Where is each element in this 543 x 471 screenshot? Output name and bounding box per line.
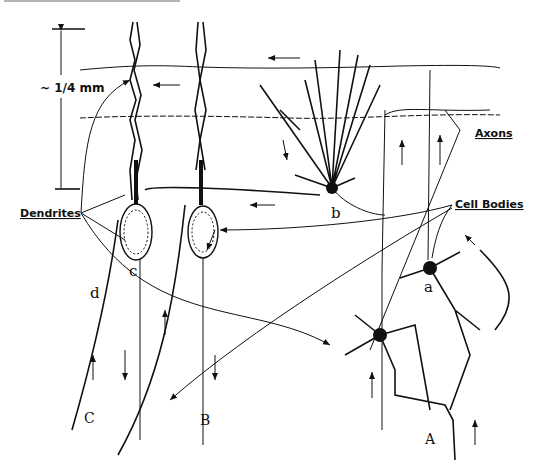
label-axons: Axons xyxy=(475,127,513,140)
stellate-cell-b: b xyxy=(260,50,385,222)
label-A: A xyxy=(424,431,436,447)
label-C: C xyxy=(84,410,95,426)
label-B: B xyxy=(200,412,210,428)
signal-arrows xyxy=(93,58,475,445)
label-a: a xyxy=(424,278,433,296)
label-c: c xyxy=(129,262,137,280)
label-dendrites: Dendrites xyxy=(20,207,81,220)
axons xyxy=(382,70,490,430)
multipolar-cell-lower: A xyxy=(345,315,455,460)
scale-label: ~ 1/4 mm xyxy=(40,81,105,95)
label-cell-bodies: Cell Bodies xyxy=(455,198,524,211)
scale-bar: ~ 1/4 mm xyxy=(40,29,105,189)
neuron-diagram: ~ 1/4 mm b xyxy=(0,0,543,471)
label-b: b xyxy=(331,204,341,222)
label-d: d xyxy=(90,284,100,302)
layer-boundaries xyxy=(80,65,500,118)
